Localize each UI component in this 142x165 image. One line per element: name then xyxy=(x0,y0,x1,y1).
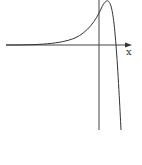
function-curve xyxy=(6,1,121,130)
x-axis-label: x xyxy=(126,46,132,57)
function-graph: x xyxy=(0,0,142,165)
